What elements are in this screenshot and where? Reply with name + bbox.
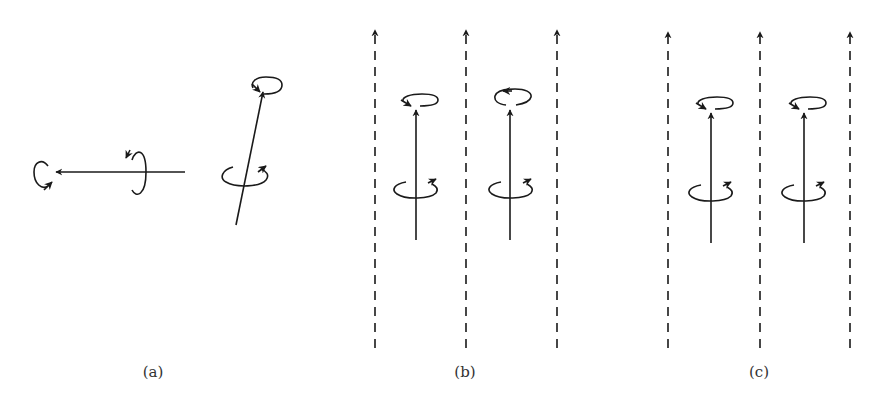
spin-diagram	[0, 0, 885, 407]
panel-b	[375, 30, 557, 348]
panel-b-label: (b)	[454, 363, 475, 381]
panel-c-label: (c)	[749, 363, 769, 381]
top-loop-icon	[495, 89, 531, 105]
panel-a-label: (a)	[143, 363, 164, 381]
panel-c	[668, 32, 850, 348]
tip-loop-icon	[34, 162, 48, 187]
tilted-spin-arrow	[236, 92, 263, 225]
panel-a	[34, 77, 282, 225]
tip-loop-icon	[252, 77, 282, 94]
body-loop-icon	[132, 152, 146, 194]
